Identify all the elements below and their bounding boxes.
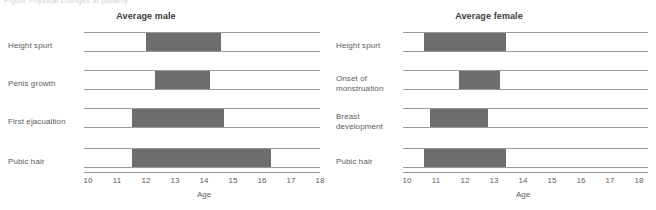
panel-title-female: Average female	[325, 11, 653, 21]
track-breast-development	[403, 108, 648, 128]
track-rule-bottom	[84, 51, 320, 52]
x-tick-label: 10	[80, 176, 96, 185]
track-pubic-hair-female	[403, 148, 648, 168]
track-rule-bottom	[403, 127, 648, 128]
track-height-spurt-female	[403, 32, 648, 52]
x-tick-label: 18	[312, 176, 328, 185]
row-label-penis-growth: Penis growth	[8, 79, 80, 89]
row-label-breast-development: Breast development	[336, 112, 408, 132]
x-tick-label: 12	[457, 176, 473, 185]
x-tick-label: 14	[515, 176, 531, 185]
x-axis-male	[84, 172, 320, 173]
x-axis-title-female: Age	[503, 190, 543, 199]
row-label-height-spurt-female: Height spurt	[336, 41, 408, 51]
x-tick-label: 15	[544, 176, 560, 185]
x-axis-title-male: Age	[184, 190, 224, 199]
bar-height-spurt-male	[146, 33, 221, 51]
track-rule-bottom	[84, 167, 320, 168]
row-label-first-ejaculation: First ejacualtion	[8, 117, 80, 127]
track-rule-bottom	[403, 89, 648, 90]
bar-height-spurt-female	[424, 33, 505, 51]
x-tick-label: 15	[225, 176, 241, 185]
track-rule-bottom	[84, 89, 320, 90]
panel-average-male: Average male Height spurt Penis growth F…	[0, 0, 328, 210]
x-tick-label: 18	[631, 176, 647, 185]
puberty-timeline-figure: Figure Physical changes at puberty Avera…	[0, 0, 656, 210]
row-label-pubic-hair-male: Pubic hair	[8, 157, 80, 167]
track-rule-top	[403, 70, 648, 71]
row-label-pubic-hair-female: Pubic hair	[336, 157, 408, 167]
track-height-spurt-male	[84, 32, 320, 52]
row-label-height-spurt-male: Height spurt	[8, 41, 80, 51]
track-pubic-hair-male	[84, 148, 320, 168]
x-tick-label: 11	[109, 176, 125, 185]
track-first-ejaculation	[84, 108, 320, 128]
x-tick-label: 16	[254, 176, 270, 185]
bar-first-ejaculation	[132, 109, 225, 127]
track-onset-of-menstruation	[403, 70, 648, 90]
panel-title-male: Average male	[0, 11, 310, 21]
bar-breast-development	[430, 109, 488, 127]
bar-pubic-hair-male	[132, 149, 271, 167]
x-tick-label: 17	[602, 176, 618, 185]
x-tick-label: 13	[486, 176, 502, 185]
bar-onset-of-menstruation	[459, 71, 500, 89]
x-tick-label: 16	[573, 176, 589, 185]
bar-pubic-hair-female	[424, 149, 505, 167]
track-penis-growth	[84, 70, 320, 90]
x-tick-label: 14	[196, 176, 212, 185]
track-rule-bottom	[403, 51, 648, 52]
x-axis-female	[403, 172, 648, 173]
x-tick-label: 13	[167, 176, 183, 185]
bar-penis-growth	[155, 71, 210, 89]
x-tick-label: 17	[283, 176, 299, 185]
track-rule-bottom	[84, 127, 320, 128]
x-tick-label: 10	[399, 176, 415, 185]
panel-average-female: Average female Height spurt Onset of mon…	[328, 0, 656, 210]
x-tick-label: 12	[138, 176, 154, 185]
track-rule-bottom	[403, 167, 648, 168]
x-tick-label: 11	[428, 176, 444, 185]
row-label-onset-of-menstruation: Onset of monstruation	[336, 74, 408, 94]
